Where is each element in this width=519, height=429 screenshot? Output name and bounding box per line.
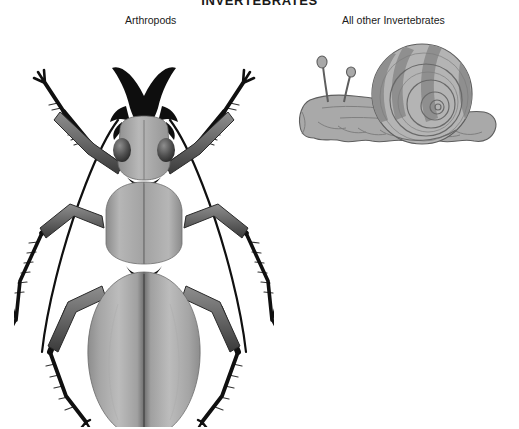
- snail-illustration: [292, 42, 504, 152]
- panel-label-arthropods: Arthropods: [125, 14, 176, 26]
- beetle-head: [113, 116, 175, 188]
- beetle-eye-left: [113, 138, 131, 162]
- beetle-elytra: [88, 272, 200, 427]
- figure-title: INVERTEBRATES: [0, 0, 519, 8]
- panel-label-all-other-invertebrates: All other Invertebrates: [342, 14, 445, 26]
- invertebrates-figure: INVERTEBRATES Arthropods All other Inver…: [0, 0, 519, 429]
- beetle-pronotum: [106, 182, 182, 280]
- beetle-eye-right: [157, 138, 175, 162]
- beetle-illustration: [14, 34, 274, 427]
